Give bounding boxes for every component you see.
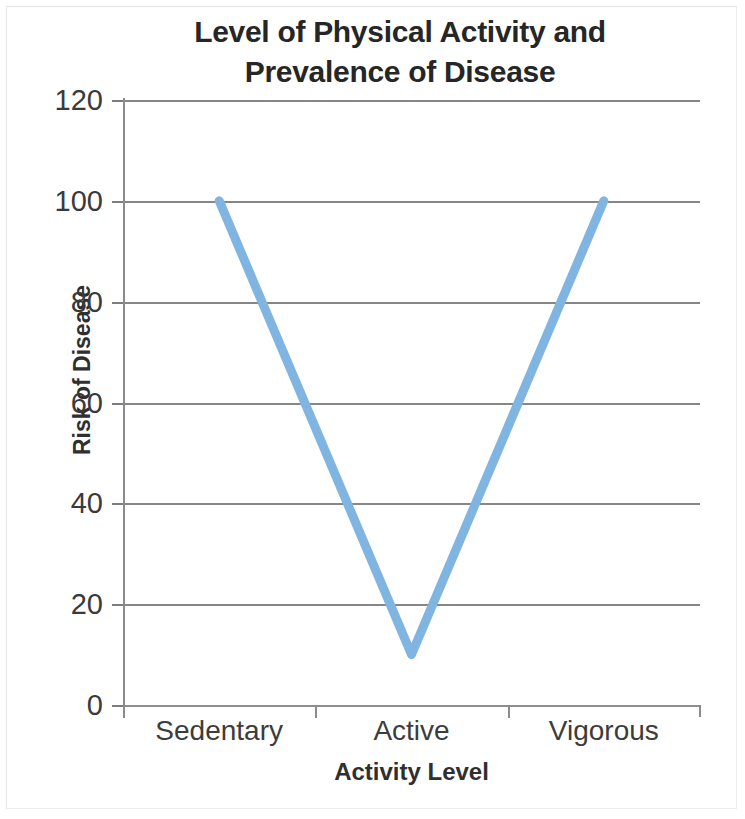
y-tick-label-20: 20 [33, 588, 103, 621]
chart-page: Level of Physical Activity and Prevalenc… [0, 0, 745, 819]
x-tick-1 [315, 705, 317, 718]
chart-title: Level of Physical Activity and Prevalenc… [120, 12, 680, 92]
y-axis-line [123, 98, 125, 709]
chart-title-line-2: Prevalence of Disease [120, 52, 680, 92]
y-tick-60 [112, 403, 123, 405]
y-tick-label-0: 0 [33, 689, 103, 722]
chart-title-line-1: Level of Physical Activity and [120, 12, 680, 52]
y-tick-80 [112, 302, 123, 304]
y-tick-40 [112, 503, 123, 505]
gridline-0 [123, 705, 700, 707]
y-tick-label-80: 80 [33, 285, 103, 318]
gridline-20 [123, 604, 700, 606]
plot-area [123, 100, 700, 705]
y-tick-100 [112, 201, 123, 203]
x-axis-title: Activity Level [123, 758, 700, 786]
x-tick-label-sedentary: Sedentary [155, 715, 283, 747]
x-tick-0 [123, 705, 125, 718]
x-tick-label-active: Active [373, 715, 449, 747]
y-tick-20 [112, 604, 123, 606]
y-tick-label-120: 120 [33, 84, 103, 117]
gridline-100 [123, 201, 700, 203]
x-tick-label-vigorous: Vigorous [549, 715, 659, 747]
y-tick-label-40: 40 [33, 487, 103, 520]
y-tick-label-60: 60 [33, 386, 103, 419]
gridline-120 [123, 100, 700, 102]
y-tick-120 [112, 100, 123, 102]
y-axis-tick-labels: 020406080100120 [28, 0, 103, 819]
y-tick-label-100: 100 [33, 184, 103, 217]
y-tick-0 [112, 705, 123, 707]
x-tick-2 [508, 705, 510, 718]
gridline-60 [123, 403, 700, 405]
gridline-80 [123, 302, 700, 304]
gridline-40 [123, 503, 700, 505]
x-axis-right-cap [699, 705, 701, 717]
